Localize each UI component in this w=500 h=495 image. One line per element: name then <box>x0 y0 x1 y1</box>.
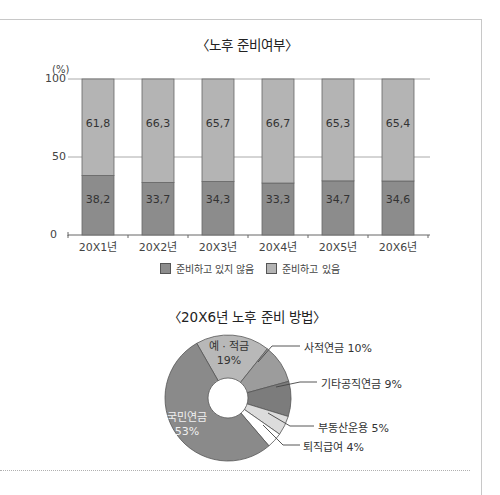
pie-label-savings: 예 · 적금 19% <box>204 340 254 368</box>
pie-label-other-public-pension: 기타공직연금 9% <box>321 375 402 391</box>
pie-label-national-pension-pct: 53% <box>162 425 212 439</box>
pie-label-real-estate: 부동산운용 5% <box>318 419 389 435</box>
pie-label-national-pension: 국민연금 53% <box>162 411 212 439</box>
pie-label-private-pension: 사적연금 10% <box>304 339 372 355</box>
pie-label-national-pension-name: 국민연금 <box>162 411 212 425</box>
pie-chart-plot <box>0 0 500 495</box>
pie-label-retirement-pay: 퇴직급여 4% <box>303 438 364 454</box>
pie-label-savings-name: 예 · 적금 <box>204 340 254 354</box>
pie-label-savings-pct: 19% <box>204 354 254 368</box>
